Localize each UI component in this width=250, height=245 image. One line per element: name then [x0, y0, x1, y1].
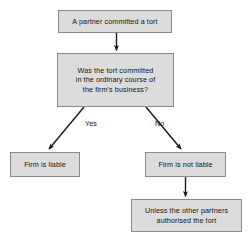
node-start: A partner committed a tort [58, 10, 172, 33]
edge-label-yes: Yes [85, 120, 97, 128]
connector-decision-to-not-liable [146, 107, 181, 149]
connector-decision-to-liable [49, 107, 84, 149]
flowchart-canvas: A partner committed a tort Was the tort … [0, 0, 250, 245]
node-start-label: A partner committed a tort [72, 17, 157, 27]
node-decision: Was the tort committed in the ordinary c… [57, 53, 174, 107]
node-firm-is-not-liable: Firm is not liable [145, 152, 226, 177]
node-decision-line-1: Was the tort committed [76, 66, 156, 76]
node-unless-authorised-text: Unless the other partners authorised the… [145, 206, 228, 225]
edge-label-no: No [155, 120, 164, 128]
node-firm-is-liable: Firm is liable [10, 152, 80, 177]
node-decision-text: Was the tort committed in the ordinary c… [76, 66, 156, 95]
node-decision-line-2: in the ordinary course of [76, 75, 156, 85]
node-unless-authorised: Unless the other partners authorised the… [131, 199, 242, 232]
node-unless-authorised-line-1: Unless the other partners [145, 206, 228, 216]
node-firm-is-liable-label: Firm is liable [24, 160, 66, 170]
node-decision-line-3: the firm's business? [76, 85, 156, 95]
node-unless-authorised-line-2: authorised the tort [145, 216, 228, 226]
node-firm-is-not-liable-label: Firm is not liable [158, 160, 212, 170]
